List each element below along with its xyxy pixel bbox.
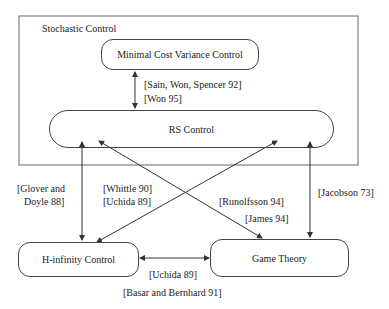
node-minimal-cost-variance-control: Minimal Cost Variance Control — [101, 39, 259, 70]
ref-whittle-90: [Whittle 90] — [103, 183, 152, 194]
node-label: Game Theory — [252, 253, 307, 264]
node-game-theory: Game Theory — [210, 239, 349, 277]
node-label: H-infinity Control — [42, 254, 115, 265]
ref-uchida-89-cross: [Uchida 89] — [103, 196, 151, 207]
ref-james-94: [James 94] — [245, 213, 289, 224]
ref-glover-doyle-1: [Glover and — [17, 183, 65, 194]
ref-runolfsson-94: [Runolfsson 94] — [219, 196, 284, 207]
ref-jacobson-73: [Jacobson 73] — [318, 187, 374, 198]
stochastic-control-label: Stochastic Control — [42, 23, 116, 34]
ref-sain-won-spencer: [Sain, Won, Spencer 92] — [144, 79, 242, 90]
ref-glover-doyle-2: Doyle 88] — [24, 196, 64, 207]
node-h-infinity-control: H-infinity Control — [18, 242, 139, 277]
diagram: Stochastic Control Minimal Cost Variance… — [0, 0, 389, 309]
ref-won-95: [Won 95] — [144, 93, 182, 104]
node-label: RS Control — [169, 124, 214, 135]
node-rs-control: RS Control — [49, 110, 334, 148]
ref-uchida-89: [Uchida 89] — [149, 269, 197, 280]
node-label: Minimal Cost Variance Control — [117, 49, 243, 60]
ref-basar-bernhard-91: [Basar and Bernhard 91] — [123, 287, 222, 298]
